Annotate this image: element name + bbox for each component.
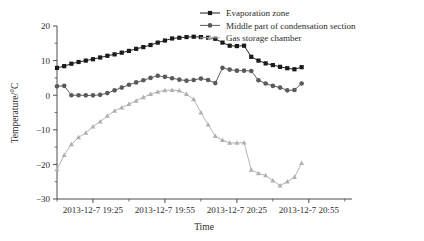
y-tick-label: −20 [36,160,51,170]
data-point-marker [170,76,175,81]
data-point-marker [184,78,189,83]
data-point-marker [271,84,276,89]
data-point-marker [228,44,232,48]
data-point-marker [127,49,131,53]
data-point-marker [163,75,168,80]
data-point-marker [220,41,224,45]
data-point-marker [206,78,211,83]
data-point-marker [256,59,260,63]
data-point-marker [242,68,247,73]
data-point-marker [55,66,59,70]
data-point-marker [112,88,117,93]
y-tick-label: 20 [41,21,51,31]
data-point-marker [192,35,196,39]
x-tick-label: 2013-12-7 19:25 [63,205,124,215]
data-point-marker [191,78,196,83]
data-point-marker [119,85,124,90]
data-point-marker [134,80,139,85]
data-point-marker [148,43,152,47]
data-point-marker [242,44,246,48]
y-tick-label: −10 [36,125,51,135]
data-point-marker [235,68,240,73]
data-point-marker [91,57,95,61]
data-point-marker [285,66,289,70]
data-point-marker [91,93,96,98]
data-point-marker [235,44,239,48]
data-point-marker [199,76,204,81]
data-point-marker [271,63,275,67]
data-point-marker [285,88,290,93]
data-point-marker [105,54,109,58]
y-tick-label: 10 [41,56,51,66]
data-point-marker [98,93,103,98]
y-axis-title: Temperature/°C [10,83,20,144]
data-point-marker [300,65,304,69]
legend-item-label: Gas storage chamber [226,33,301,43]
legend-item-label: Evaporation zone [226,8,289,18]
data-point-marker [208,23,213,28]
x-tick-label: 2013-12-7 19:55 [135,205,196,215]
data-point-marker [278,65,282,69]
data-point-marker [163,38,167,42]
data-point-marker [156,41,160,45]
data-point-marker [177,36,181,40]
data-point-marker [213,81,218,86]
y-tick-label: −30 [36,194,51,204]
data-point-marker [127,83,132,88]
data-point-marker [55,84,60,89]
data-point-marker [141,78,146,83]
data-point-marker [170,36,174,40]
data-point-marker [292,67,296,71]
data-point-marker [249,69,254,74]
data-point-marker [227,67,232,72]
data-point-marker [299,81,304,86]
data-point-marker [69,62,73,66]
data-point-marker [134,47,138,51]
data-point-marker [177,77,182,82]
data-point-marker [83,93,88,98]
data-point-marker [69,93,74,98]
data-point-marker [141,45,145,49]
data-point-marker [76,60,80,64]
data-point-marker [264,61,268,65]
legend-item-label: Middle part of condensation section [226,21,356,31]
data-point-marker [76,93,81,98]
data-point-marker [105,91,110,96]
data-point-marker [199,35,203,39]
data-point-marker [155,74,160,79]
data-point-marker [184,35,188,39]
x-tick-label: 2013-12-7 20:55 [279,205,340,215]
chart-figure: −30−20−1001020 2013-12-7 19:252013-12-7 … [0,0,424,241]
x-tick-label: 2013-12-7 20:25 [207,205,268,215]
data-point-marker [98,55,102,59]
data-point-marker [84,59,88,63]
data-point-marker [249,55,253,59]
data-point-marker [220,66,225,71]
data-point-marker [62,84,67,89]
x-axis-title: Time [194,222,214,232]
data-point-marker [112,52,116,56]
data-point-marker [263,81,268,86]
data-point-marker [208,11,212,15]
data-point-marker [278,85,283,90]
data-point-marker [62,64,66,68]
data-point-marker [148,76,153,81]
data-point-marker [256,78,261,83]
data-point-marker [120,51,124,55]
data-point-marker [292,88,297,93]
y-tick-label: 0 [46,91,51,101]
